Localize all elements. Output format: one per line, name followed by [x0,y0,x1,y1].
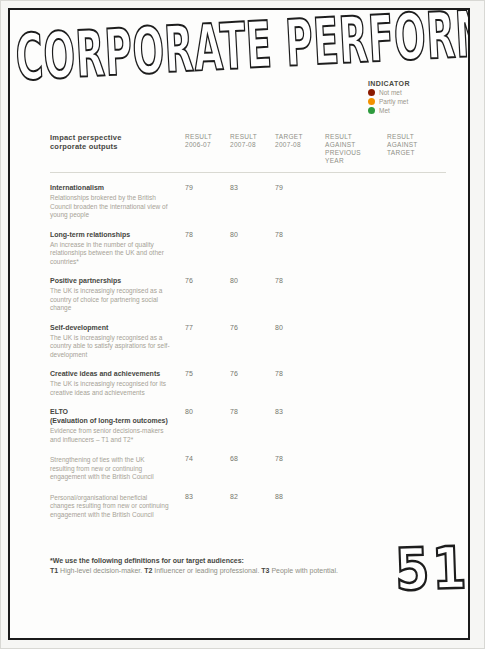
row-result-2006-07: 74 [185,454,230,482]
header-result-against-previous-year: RESULT AGAINST PREVIOUS YEAR [325,133,387,165]
row-result-2006-07: 83 [185,492,230,520]
row-result-2007-08: 82 [230,492,275,520]
scanned-page: CORPORATE PERFORMANCE INDICATOR Not met … [0,0,485,649]
row-name: Internationalism [50,183,185,192]
footnote-heading: *We use the following definitions for ou… [50,556,370,565]
footnote-text-t2: Influencer or leading professional. [152,567,261,574]
row-target-2007-08: 88 [275,492,325,520]
legend-items: Not met Partly met Met [368,89,410,114]
row-description: Relationships brokered by the British Co… [50,194,185,220]
performance-table: Impact perspective corporate outputs RES… [50,133,446,529]
header-result-2007-08: RESULT 2007-08 [230,133,275,165]
legend-title: INDICATOR [368,80,410,87]
legend-item: Partly met [368,98,410,105]
page-frame: CORPORATE PERFORMANCE INDICATOR Not met … [8,8,470,640]
row-result-2006-07: 78 [185,230,230,267]
table-row: Internationalism Relationships brokered … [50,183,446,220]
row-description: Evidence from senior decisions-makers an… [50,427,185,444]
row-description: The UK is increasingly recognised for it… [50,380,185,397]
legend-item: Met [368,107,410,114]
row-name: Creative ideas and achievements [50,369,185,378]
table-row: Long-term relationships An increase in t… [50,230,446,267]
row-name: Self-development [50,323,185,332]
row-description: The UK is increasingly recognised as a c… [50,334,185,360]
table-row: Self-development The UK is increasingly … [50,323,446,360]
legend-dot-icon [368,89,375,96]
row-description: Personal/organisational beneficial chang… [50,494,185,520]
row-result-2007-08: 68 [230,454,275,482]
row-result-2007-08: 83 [230,183,275,220]
table-header-row: Impact perspective corporate outputs RES… [50,133,446,165]
row-result-2007-08: 76 [230,323,275,360]
table-row: Positive partnerships The UK is increasi… [50,276,446,313]
row-name: Positive partnerships [50,276,185,285]
row-target-2007-08: 80 [275,323,325,360]
footnote-definitions: T1 High-level decision-maker. T2 Influen… [50,566,370,575]
legend-label: Partly met [379,98,408,105]
row-description: An increase in the number of quality rel… [50,241,185,267]
row-target-2007-08: 78 [275,276,325,313]
row-result-2006-07: 75 [185,369,230,397]
table-row: Strengthening of ties with the UK result… [50,454,446,482]
footnote-term-t1: T1 [50,567,58,574]
row-result-2006-07: 80 [185,407,230,444]
row-description: The UK is increasingly recognised as a c… [50,287,185,313]
footnote: *We use the following definitions for ou… [50,556,370,575]
row-result-2006-07: 76 [185,276,230,313]
header-divider [50,172,446,173]
table-body: Internationalism Relationships brokered … [50,183,446,519]
page-number: 51 [394,535,470,602]
row-result-2006-07: 77 [185,323,230,360]
row-description: Strengthening of ties with the UK result… [50,456,185,482]
header-result-against-target: RESULT AGAINST TARGET [387,133,446,165]
header-result-2006-07: RESULT 2006-07 [185,133,230,165]
header-target-2007-08: TARGET 2007-08 [275,133,325,165]
legend-label: Not met [379,89,402,96]
legend-label: Met [379,107,390,114]
legend-item: Not met [368,89,410,96]
legend-dot-icon [368,107,375,114]
table-row: ELTO (Evaluation of long-term outcomes) … [50,407,446,444]
row-result-2006-07: 79 [185,183,230,220]
row-target-2007-08: 83 [275,407,325,444]
row-result-2007-08: 80 [230,230,275,267]
row-result-2007-08: 78 [230,407,275,444]
table-row: Creative ideas and achievements The UK i… [50,369,446,397]
footnote-text-t3: People with potential. [269,567,338,574]
row-target-2007-08: 79 [275,183,325,220]
header-impact-perspective: Impact perspective corporate outputs [50,133,185,165]
indicator-legend: INDICATOR Not met Partly met Met [368,80,410,116]
footnote-text-t1: High-level decision-maker. [58,567,144,574]
row-target-2007-08: 78 [275,454,325,482]
row-target-2007-08: 78 [275,230,325,267]
table-row: Personal/organisational beneficial chang… [50,492,446,520]
row-name: ELTO (Evaluation of long-term outcomes) [50,407,185,425]
row-result-2007-08: 80 [230,276,275,313]
legend-dot-icon [368,98,375,105]
row-result-2007-08: 76 [230,369,275,397]
row-target-2007-08: 78 [275,369,325,397]
row-name: Long-term relationships [50,230,185,239]
